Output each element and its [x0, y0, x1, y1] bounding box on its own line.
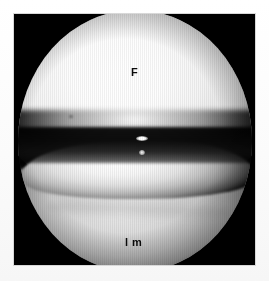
annotation-label-femur: F — [131, 67, 138, 78]
specular-highlight-secondary — [139, 150, 145, 155]
joint-space-band — [18, 127, 252, 164]
arthroscope-field-of-view — [18, 14, 252, 265]
annotation-label-meniscus: l m — [125, 237, 142, 248]
page-root: F l m — [0, 0, 269, 281]
photo-frame: F l m — [14, 14, 255, 265]
